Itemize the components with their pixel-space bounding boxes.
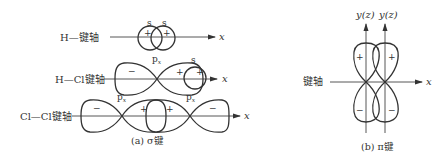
clcl-axis-label: Cl—Cl键轴	[20, 110, 72, 122]
pi-sign-upper-left: +	[356, 52, 364, 62]
clcl-sign-2: +	[140, 104, 148, 114]
sigma-hh-group: H—键轴 x s s + +	[60, 18, 225, 50]
clcl-x-label: x	[244, 110, 250, 121]
hh-orbital-label-2: s	[162, 18, 167, 28]
clcl-p-label-right: px	[186, 92, 196, 103]
pi-left-upper-lobe	[354, 43, 379, 82]
pi-group: 键轴 x y(z) y(z) + + − −	[303, 9, 432, 133]
pi-sign-lower-left: −	[356, 105, 364, 115]
hcl-sign-3: +	[196, 67, 204, 77]
pi-y-label-left: y(z)	[355, 9, 375, 20]
hh-orbital-label-1: s	[147, 18, 152, 28]
pi-x-label: x	[426, 76, 432, 87]
pi-axis-label: 键轴	[303, 75, 323, 87]
clcl-p-label-left: px	[117, 92, 127, 103]
pi-caption: (b) π键	[361, 141, 394, 152]
hh-x-label: x	[219, 31, 225, 42]
hh-sign-1: +	[144, 28, 152, 38]
pi-left-lower-lobe	[354, 82, 379, 122]
pi-y-label-right: y(z)	[378, 9, 398, 20]
pi-sign-lower-right: −	[388, 105, 396, 115]
pi-sign-upper-right: +	[388, 52, 396, 62]
hh-axis-label: H—键轴	[60, 31, 99, 43]
clcl-sign-3: +	[166, 104, 174, 114]
hcl-sign-1: −	[128, 66, 136, 76]
clcl-sign-4: −	[209, 103, 217, 113]
sigma-caption: (a) σ键	[131, 135, 164, 146]
sigma-hcl-group: H—Cl键轴 x px s − + +	[55, 54, 228, 95]
sigma-clcl-group: Cl—Cl键轴 x px px − + + −	[20, 92, 250, 132]
clcl-sign-1: −	[93, 103, 101, 113]
hcl-x-label: x	[222, 73, 228, 84]
hcl-sign-2: +	[176, 67, 184, 77]
hcl-s-label: s	[191, 55, 196, 65]
hcl-axis-label: H—Cl键轴	[55, 73, 105, 85]
hcl-p-label: px	[152, 54, 162, 65]
pi-right-upper-lobe	[373, 43, 398, 82]
pi-right-lower-lobe	[373, 82, 398, 122]
hh-sign-2: +	[163, 28, 171, 38]
orbital-overlap-diagram: H—键轴 x s s + + H—Cl键轴 x px s − + + Cl—Cl…	[0, 0, 448, 161]
